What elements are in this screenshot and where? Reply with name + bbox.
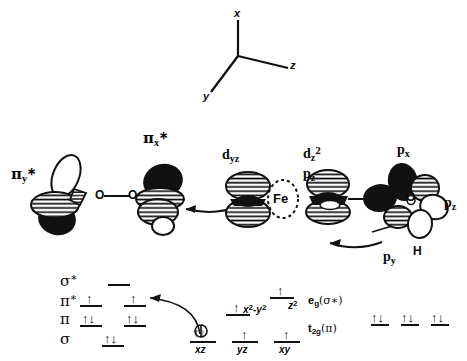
figure-canvas: x z y xyxy=(0,0,467,361)
arrow-xz-to-pistar xyxy=(0,0,467,361)
